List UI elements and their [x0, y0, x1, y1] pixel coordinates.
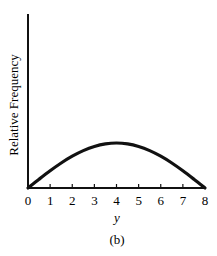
- figure-caption: (b): [109, 232, 124, 247]
- x-tick-label: 7: [180, 193, 187, 208]
- axes: [28, 14, 206, 188]
- frequency-curve: [28, 143, 205, 188]
- x-tick-label: 2: [69, 193, 76, 208]
- x-axis-title: y: [112, 210, 120, 225]
- y-axis-title: Relative Frequency: [6, 54, 21, 156]
- chart: 012345678 Relative Frequency y (b): [0, 0, 217, 256]
- x-tick-label: 0: [25, 193, 32, 208]
- x-tick-label: 1: [47, 193, 54, 208]
- x-tick-label: 6: [158, 193, 165, 208]
- x-tick-label: 4: [113, 193, 120, 208]
- x-tick-label: 3: [91, 193, 98, 208]
- x-tick-label: 5: [135, 193, 142, 208]
- x-tick-label: 8: [202, 193, 209, 208]
